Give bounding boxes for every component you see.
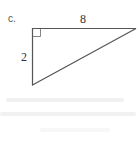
side-label-left: 2 (21, 50, 27, 65)
right-triangle (0, 0, 140, 143)
bleed-through-line (0, 112, 136, 116)
side-label-top: 8 (80, 12, 86, 27)
right-angle-marker-icon (33, 29, 41, 37)
triangle-outline (33, 29, 137, 86)
bleed-through-line (6, 98, 124, 102)
bleed-through-line (40, 128, 110, 132)
